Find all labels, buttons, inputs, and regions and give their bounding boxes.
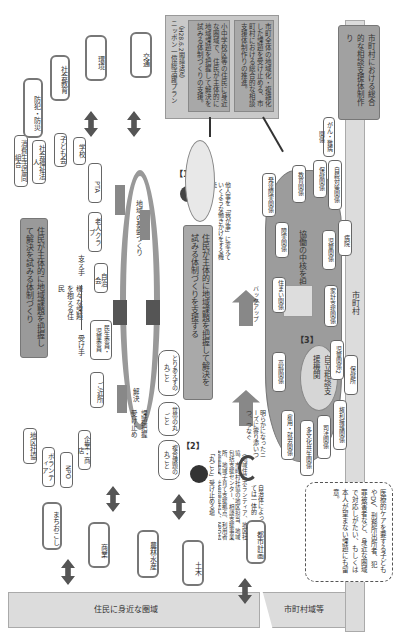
- plan-panel: ニッポン一億総活躍プラン （H28.6.2閣議決定） 小中学校区等の住民に身近な…: [165, 15, 279, 119]
- band-municipal-area: 市町村域等: [255, 592, 352, 628]
- field-environment: 環境: [85, 35, 107, 81]
- section1-oval: [185, 140, 215, 222]
- label-reveal-needs: 明らかになったニーズに寄り添いつつ、つなぐ: [245, 410, 267, 460]
- label-integrated-autonomy: 自治体によっては一体的: [250, 485, 264, 525]
- org-neighbors: ご近所: [90, 372, 104, 408]
- field-commerce: 商業: [88, 522, 110, 568]
- org-social-welfare-corp: 社会福祉法人: [32, 140, 46, 184]
- field-city-planning: 都市計画: [246, 520, 266, 564]
- arrow-down-dark-icon: [146, 300, 160, 325]
- tag-complex-issue: 複合課題の丸ごと: [158, 440, 180, 480]
- bidirectional-arrow-icon: [81, 285, 82, 330]
- section-2-number: 【2】: [182, 440, 204, 451]
- section-3-number: 【3】: [296, 334, 318, 345]
- agency-suicide-prevention: 自殺対策関係: [328, 160, 342, 210]
- agency-rights-advocacy: 権利擁護関係: [333, 400, 347, 450]
- agency-child-2: 児童関係2: [330, 340, 344, 380]
- plan-item-municipal: 市町全体の地域化・複雑化した課題を受け止める、市町村における総合的な相談支援体制…: [234, 20, 274, 112]
- agency-elderly: 高齢関係: [272, 352, 286, 392]
- arrow-down-icon: [140, 210, 150, 240]
- field-crime-disaster: 防犯・防災: [23, 78, 43, 138]
- plan-subtitle: （H28.6.2閣議決定）: [178, 22, 185, 112]
- agency-cancer-disease: がん・難病関係: [323, 117, 335, 157]
- field-civil-engineering: 土木: [182, 540, 204, 586]
- label-issue-grasp: 課題把握受け止め: [128, 410, 148, 440]
- double-arrow-icon: [61, 559, 75, 585]
- quote-catch-all: 「丸ごと」受け止める場: [208, 450, 215, 530]
- org-business-shop: 企業・商店: [78, 430, 91, 470]
- agency-employment: 雇用・就労関係: [281, 410, 295, 460]
- field-agriculture: 農林水産: [137, 530, 159, 578]
- agency-developmental: 発達障害関係: [262, 173, 276, 217]
- tag-for-now: とりあえずの丸ごと: [158, 350, 180, 396]
- label-backup: バックアップ: [252, 286, 259, 322]
- agency-hospital: 病院: [338, 220, 352, 256]
- note-box: 医療的ケアを要する子どもやDV、刑務所出所者、犯罪被害者など、身近な圏域で対応し…: [305, 482, 393, 582]
- banner-resident-system: 住民が主体的に地域課題を把握して解決を試みる体制づくり: [20, 218, 48, 358]
- org-neighborhood-assoc: 自治会: [94, 263, 108, 293]
- band-local-area-label: 住民に身近な圏域: [94, 603, 158, 614]
- agency-judicial: 司法関係: [317, 415, 331, 459]
- banner-support-system: 住民が主体的に地域課題を把握して解決を試みる体制づくりを支援する: [183, 225, 213, 400]
- band-municipality-label: 市町村: [349, 291, 360, 315]
- org-consumer-coop: 消費生活協同組合: [14, 135, 28, 187]
- band-local-area: 住民に身近な圏域: [8, 592, 260, 628]
- double-arrow-icon: [127, 111, 141, 137]
- plan-title: ニッポン一億総活躍プラン: [168, 20, 176, 110]
- double-arrow-icon: [106, 486, 120, 512]
- agency-education: 教育関係: [292, 165, 306, 203]
- label-independence-agency: 自立相談支援機関: [310, 355, 331, 399]
- double-arrow-icon: [172, 494, 186, 520]
- double-arrow-icon: [84, 111, 98, 137]
- org-childrens-club: 子ども会: [54, 133, 67, 167]
- label-residents-with-issues: 様々な課題を抱える住民: [56, 285, 83, 325]
- org-elderly-club: 老人クラブ: [88, 212, 102, 252]
- agency-child: 児童関係: [322, 230, 336, 270]
- org-npo: NPO: [60, 452, 73, 488]
- pointer-arrow-icon: [209, 117, 211, 137]
- group-photo: [283, 285, 313, 317]
- label-resolve: 解決: [130, 388, 140, 402]
- label-supporter: 支え手: [76, 255, 86, 276]
- arrow-resolve-icon: [117, 385, 127, 413]
- person-icon: [190, 465, 208, 483]
- agency-health-center: 保健所: [344, 355, 358, 395]
- band-municipal-area-label: 市町村域等: [284, 603, 324, 614]
- arrow-up-icon: [115, 185, 125, 215]
- agency-health: 保健関係: [313, 160, 327, 198]
- agency-household-finance: 家計支援関係: [324, 285, 338, 327]
- agency-housing: 住まい関係: [272, 277, 286, 313]
- org-school: 学校: [73, 137, 86, 165]
- field-social-education: 社会教育: [50, 55, 70, 101]
- org-welfare-commissioner: 民生委員・児童委員: [90, 320, 112, 360]
- label-receiver: 受け手: [76, 335, 86, 356]
- agency-multicultural: 多文化共生関係: [300, 420, 314, 476]
- field-transport: 交通: [130, 32, 152, 78]
- tag-household: 世帯の丸ごと: [158, 402, 180, 436]
- municipal-consultation-box: 市町村における総合的な相談支援体制作り: [338, 25, 380, 120]
- field-town-revitalization: まちおこし: [42, 502, 62, 550]
- pointer-arrow-icon: [262, 117, 284, 153]
- plan-item-local: 小中学校区等の住民に身近な圏域で、住民が主体的に地域課題を把握して解決を試みる体…: [188, 20, 230, 112]
- arrow-up-dark-icon: [113, 300, 127, 325]
- agency-disability: 障害関係: [275, 222, 289, 258]
- org-district-council: 地区社協: [23, 428, 37, 464]
- org-pta: PTA: [88, 163, 102, 203]
- org-volunteer: ボランティア: [42, 447, 55, 487]
